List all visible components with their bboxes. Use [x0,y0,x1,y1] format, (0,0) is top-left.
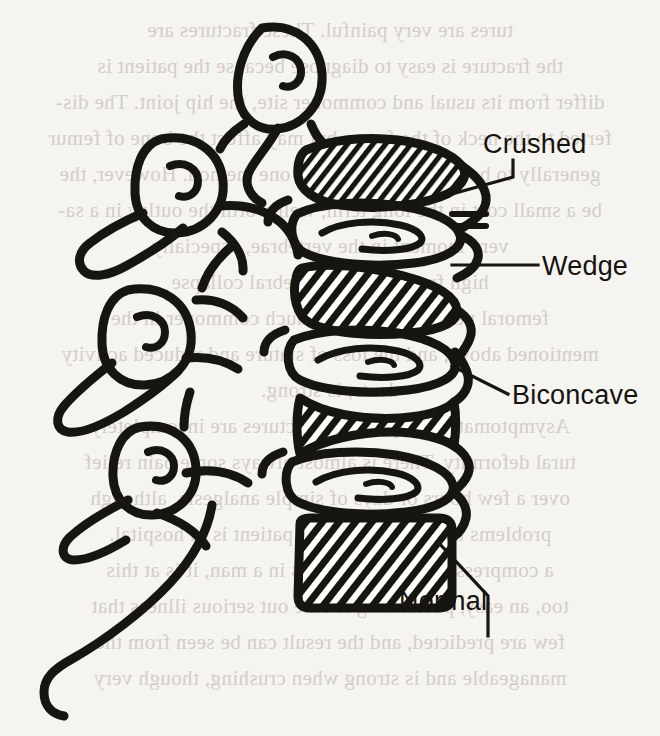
intervertebral-disc-1 [292,203,461,265]
vertebral-body-wedge [295,265,458,334]
intervertebral-disc-2 [288,330,455,392]
spinous-process-3 [58,289,243,432]
spine-illustration [0,0,660,736]
spinous-process-4 [44,426,248,716]
label-wedge: Wedge [542,251,628,282]
vertebral-body-biconcave [297,398,456,454]
label-crushed: Crushed [483,129,586,160]
intervertebral-disc-3 [286,452,453,514]
label-normal: Normal [399,586,487,617]
figure-page: tures are very painful. These fractures … [0,0,660,736]
label-biconcave: Biconcave [512,380,638,411]
facet-joints [262,200,288,474]
spinous-process-2 [79,138,298,275]
leader-biconcave [452,366,508,394]
anterior-vertebral-border [452,166,486,538]
